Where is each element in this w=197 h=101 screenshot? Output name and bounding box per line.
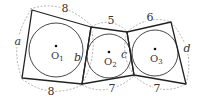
label-o2: O2 <box>104 56 117 69</box>
center-dot-o1 <box>55 45 58 48</box>
label-top-3: 6 <box>147 11 154 24</box>
label-top-2: 5 <box>108 14 115 27</box>
label-o3: O3 <box>150 53 163 66</box>
label-c: c <box>121 48 127 61</box>
label-o1: O1 <box>51 50 64 63</box>
label-bottom-2: 7 <box>109 82 116 95</box>
center-dot-o2 <box>108 51 111 54</box>
geometry-diagram: O1 O2 O3 8 8 5 7 6 7 a b c d <box>0 0 197 101</box>
side-labels: 8 8 5 7 6 7 a b c d <box>14 2 191 98</box>
label-bottom-1: 8 <box>48 85 55 98</box>
center-points <box>55 45 157 54</box>
quadrilaterals <box>22 10 186 84</box>
label-d: d <box>184 42 191 55</box>
center-dot-o3 <box>154 48 157 51</box>
diagram-canvas: O1 O2 O3 8 8 5 7 6 7 a b c d <box>0 0 197 101</box>
label-bottom-3: 7 <box>154 82 161 95</box>
label-b: b <box>74 51 81 64</box>
label-a: a <box>15 35 22 48</box>
label-top-1: 8 <box>62 2 69 15</box>
dashed-measure-arcs <box>17 6 189 91</box>
